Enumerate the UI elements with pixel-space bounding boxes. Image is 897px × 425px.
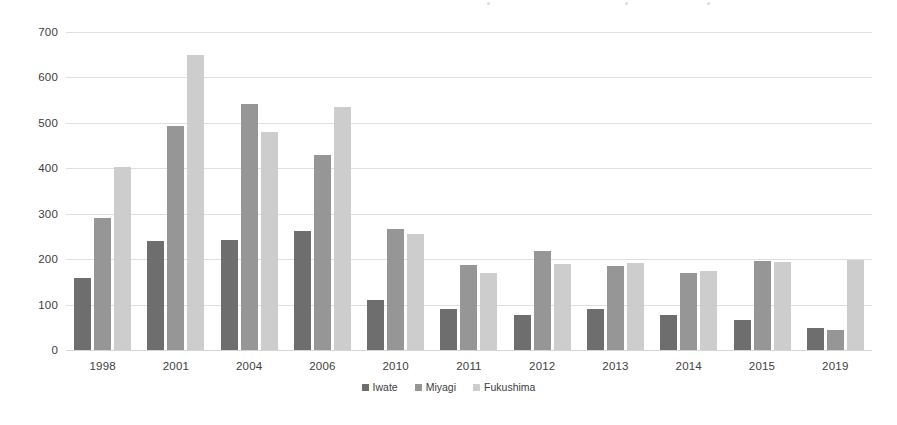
legend-label: Miyagi	[426, 382, 456, 393]
y-axis-tick: 100	[38, 299, 58, 311]
bar-fukushima-2019[interactable]	[847, 260, 864, 350]
bar-iwate-2011[interactable]	[440, 309, 457, 350]
bar-fukushima-2014[interactable]	[700, 271, 717, 350]
x-axis-tick: 2001	[139, 352, 212, 372]
x-axis-tick: 2011	[432, 352, 505, 372]
bar-miyagi-2010[interactable]	[387, 229, 404, 350]
bar-group	[359, 32, 432, 350]
bar-group	[432, 32, 505, 350]
legend-item-fukushima[interactable]: Fukushima	[473, 382, 535, 393]
bar-miyagi-2019[interactable]	[827, 330, 844, 350]
bar-miyagi-2001[interactable]	[167, 126, 184, 350]
bar-fukushima-2012[interactable]	[554, 264, 571, 350]
scan-artifact	[625, 2, 628, 5]
chart-legend: IwateMiyagiFukushima	[0, 382, 897, 393]
bar-fukushima-2004[interactable]	[261, 132, 278, 351]
y-axis-tick: 500	[38, 117, 58, 129]
scan-artifact	[707, 2, 710, 5]
bar-fukushima-2001[interactable]	[187, 55, 204, 350]
y-axis-tick: 300	[38, 208, 58, 220]
x-axis-tick: 2004	[213, 352, 286, 372]
bar-chart: 7006005004003002001000 19982001200420062…	[0, 0, 897, 425]
bar-miyagi-2006[interactable]	[314, 155, 331, 350]
x-axis: 1998200120042006201020112012201320142015…	[66, 352, 872, 372]
bar-fukushima-2011[interactable]	[480, 273, 497, 350]
bar-iwate-1998[interactable]	[74, 278, 91, 350]
bar-group	[799, 32, 872, 350]
bar-groups	[66, 32, 872, 350]
bar-group	[652, 32, 725, 350]
bar-group	[506, 32, 579, 350]
bar-iwate-2001[interactable]	[147, 241, 164, 350]
bar-miyagi-2004[interactable]	[241, 104, 258, 350]
bar-iwate-2013[interactable]	[587, 309, 604, 350]
bar-group	[286, 32, 359, 350]
legend-swatch-icon	[415, 384, 422, 391]
legend-label: Fukushima	[484, 382, 535, 393]
bar-group	[725, 32, 798, 350]
bar-group	[139, 32, 212, 350]
bar-iwate-2019[interactable]	[807, 328, 824, 350]
x-axis-tick: 2010	[359, 352, 432, 372]
x-axis-tick: 2015	[725, 352, 798, 372]
legend-label: Iwate	[373, 382, 398, 393]
axis-baseline	[66, 350, 872, 351]
bar-iwate-2012[interactable]	[514, 315, 531, 350]
bar-fukushima-1998[interactable]	[114, 167, 131, 350]
plot-area	[66, 32, 872, 350]
bar-iwate-2006[interactable]	[294, 231, 311, 350]
legend-swatch-icon	[362, 384, 369, 391]
y-axis-tick: 600	[38, 71, 58, 83]
x-axis-tick: 2014	[652, 352, 725, 372]
legend-item-miyagi[interactable]: Miyagi	[415, 382, 456, 393]
bar-miyagi-2014[interactable]	[680, 273, 697, 350]
bar-iwate-2004[interactable]	[221, 240, 238, 350]
x-axis-tick: 2012	[506, 352, 579, 372]
bar-group	[213, 32, 286, 350]
bar-iwate-2010[interactable]	[367, 300, 384, 350]
y-axis: 7006005004003002001000	[0, 32, 58, 350]
y-axis-tick: 700	[38, 26, 58, 38]
bar-iwate-2014[interactable]	[660, 315, 677, 350]
y-axis-tick: 200	[38, 253, 58, 265]
x-axis-tick: 2013	[579, 352, 652, 372]
bar-fukushima-2006[interactable]	[334, 107, 351, 350]
bar-fukushima-2015[interactable]	[774, 262, 791, 350]
y-axis-tick: 0	[51, 344, 58, 356]
bar-miyagi-1998[interactable]	[94, 218, 111, 350]
bar-fukushima-2010[interactable]	[407, 234, 424, 350]
bar-miyagi-2015[interactable]	[754, 261, 771, 350]
bar-fukushima-2013[interactable]	[627, 263, 644, 350]
x-axis-tick: 2006	[286, 352, 359, 372]
bar-group	[579, 32, 652, 350]
bar-miyagi-2011[interactable]	[460, 265, 477, 350]
bar-iwate-2015[interactable]	[734, 320, 751, 350]
bar-miyagi-2013[interactable]	[607, 266, 624, 350]
y-axis-tick: 400	[38, 162, 58, 174]
x-axis-tick: 2019	[799, 352, 872, 372]
scan-artifact	[487, 2, 490, 5]
legend-item-iwate[interactable]: Iwate	[362, 382, 398, 393]
bar-miyagi-2012[interactable]	[534, 251, 551, 350]
bar-group	[66, 32, 139, 350]
x-axis-tick: 1998	[66, 352, 139, 372]
legend-swatch-icon	[473, 384, 480, 391]
